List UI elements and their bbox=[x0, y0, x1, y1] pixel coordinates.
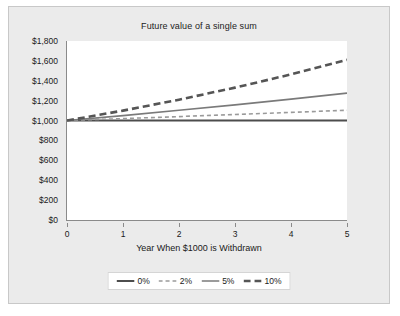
y-axis-tick-label: $600 bbox=[39, 155, 58, 165]
y-axis-tick-label: $0 bbox=[49, 215, 58, 225]
x-axis-tick-label: 4 bbox=[289, 229, 294, 239]
x-axis-label: Year When $1000 is Withdrawn bbox=[9, 243, 389, 253]
x-axis-tick-label: 5 bbox=[345, 229, 350, 239]
x-axis-tick-label: 3 bbox=[233, 229, 238, 239]
chart-legend: 0%2%5%10% bbox=[108, 272, 291, 290]
legend-label: 0% bbox=[138, 276, 150, 286]
chart-title: Future value of a single sum bbox=[9, 21, 389, 31]
legend-label: 10% bbox=[264, 276, 281, 286]
chart-figure: Future value of a single sum $0$200$400$… bbox=[8, 6, 390, 304]
series-line-5pct bbox=[67, 93, 347, 120]
y-axis-tick-label: $800 bbox=[39, 135, 58, 145]
legend-item-2pct[interactable]: 2% bbox=[159, 276, 192, 286]
x-axis-tick-mark bbox=[235, 223, 236, 227]
plot-area bbox=[66, 41, 347, 221]
x-axis-tick-mark bbox=[291, 223, 292, 227]
y-axis-tick-label: $1,200 bbox=[32, 96, 58, 106]
x-axis-tick-mark bbox=[179, 223, 180, 227]
x-axis-tick-mark bbox=[347, 223, 348, 227]
plot-lines bbox=[67, 41, 347, 220]
legend-swatch-2pct bbox=[159, 277, 177, 285]
x-axis-tick-label: 1 bbox=[121, 229, 126, 239]
legend-item-5pct[interactable]: 5% bbox=[201, 276, 234, 286]
y-axis-tick-label: $1,400 bbox=[32, 76, 58, 86]
x-axis-tick-label: 0 bbox=[65, 229, 70, 239]
y-axis-tick-label: $400 bbox=[39, 175, 58, 185]
y-axis-tick-labels: $0$200$400$600$800$1,000$1,200$1,400$1,6… bbox=[9, 41, 62, 220]
x-axis-tick-mark bbox=[123, 223, 124, 227]
legend-item-0pct[interactable]: 0% bbox=[117, 276, 150, 286]
x-axis-tick-label: 2 bbox=[177, 229, 182, 239]
y-axis-tick-label: $1,800 bbox=[32, 36, 58, 46]
y-axis-tick-label: $1,000 bbox=[32, 116, 58, 126]
legend-item-10pct[interactable]: 10% bbox=[243, 276, 281, 286]
legend-swatch-0pct bbox=[117, 277, 135, 285]
series-line-2pct bbox=[67, 110, 347, 120]
y-axis-tick-label: $200 bbox=[39, 195, 58, 205]
x-axis-tick-mark bbox=[67, 223, 68, 227]
legend-swatch-10pct bbox=[243, 277, 261, 285]
x-axis-tick-labels: 012345 bbox=[66, 223, 347, 239]
legend-label: 5% bbox=[222, 276, 234, 286]
legend-swatch-5pct bbox=[201, 277, 219, 285]
y-axis-tick-label: $1,600 bbox=[32, 56, 58, 66]
legend-label: 2% bbox=[180, 276, 192, 286]
